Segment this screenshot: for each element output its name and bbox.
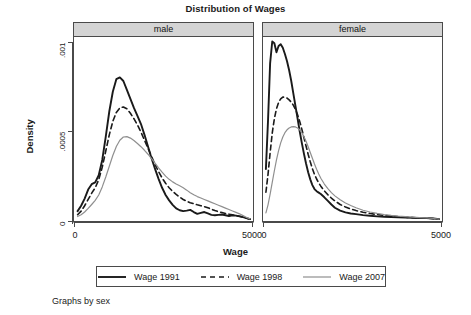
panel-header-male: male — [73, 22, 254, 37]
series-line-wage-1998 — [266, 97, 439, 219]
legend-swatch-wage-1991 — [97, 272, 127, 282]
x-tick-label-female-0: 0 — [248, 230, 280, 240]
plot-area-male — [73, 37, 254, 222]
x-axis-title: Wage — [0, 246, 471, 257]
legend: Wage 1991 Wage 1998 Wage 2007 — [96, 266, 386, 287]
legend-swatch-wage-1998 — [200, 272, 230, 282]
legend-label-wage-1998: Wage 1998 — [237, 272, 283, 282]
page-title: Distribution of Wages — [0, 3, 471, 14]
series-line-wage-1991 — [78, 77, 250, 219]
series-line-wage-2007 — [266, 127, 439, 220]
legend-item-wage-2007[interactable]: Wage 2007 — [302, 272, 385, 282]
panel-label-female: female — [339, 24, 366, 34]
panel-header-female: female — [262, 22, 443, 37]
series-canvas-female — [263, 37, 442, 220]
panel-label-male: male — [154, 24, 174, 34]
legend-item-wage-1998[interactable]: Wage 1998 — [200, 272, 283, 282]
x-axis-male — [73, 222, 254, 230]
series-line-wage-1991 — [266, 42, 439, 220]
y-axis-title: Density — [24, 94, 35, 154]
series-line-wage-1998 — [78, 107, 250, 219]
x-axis-female — [262, 222, 443, 230]
legend-label-wage-2007: Wage 2007 — [339, 272, 385, 282]
legend-item-wage-1991[interactable]: Wage 1991 — [97, 272, 180, 282]
x-tick-label-male-0: 0 — [59, 230, 91, 240]
legend-label-wage-1991: Wage 1991 — [134, 272, 180, 282]
plot-area-female — [262, 37, 443, 222]
series-canvas-male — [74, 37, 253, 220]
chart-canvas: Distribution of Wages Density .001 .0005… — [0, 0, 471, 315]
legend-swatch-wage-2007 — [302, 272, 332, 282]
footnote: Graphs by sex — [52, 296, 110, 306]
x-tick-label-female-5000: 5000 — [420, 230, 462, 240]
